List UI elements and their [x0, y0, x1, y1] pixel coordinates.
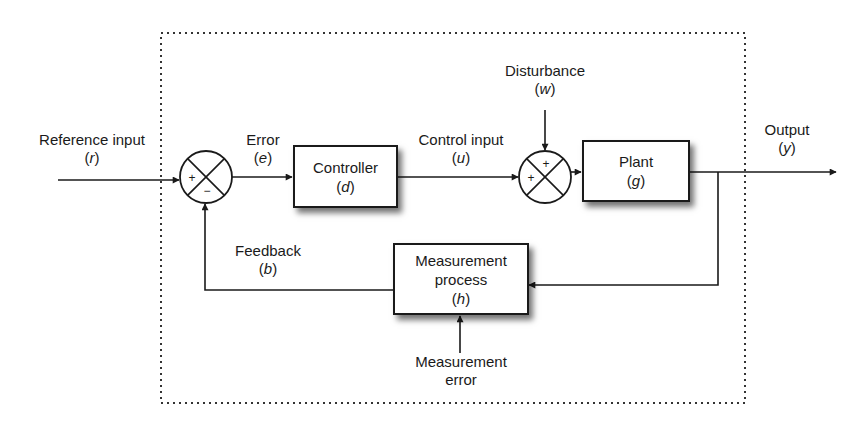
- junction2-plus-top-sign: +: [542, 158, 549, 170]
- junction1-plus-sign: +: [188, 172, 195, 184]
- measurement-process-block: Measurement process (h): [393, 243, 529, 315]
- controller-block: Controller (d): [293, 145, 398, 208]
- measurement-symbol: (h): [452, 289, 470, 308]
- feedback-label: Feedback (b): [235, 242, 301, 278]
- disturbance-label: Disturbance (w): [505, 62, 585, 98]
- measurement-label-line1: Measurement: [415, 251, 507, 270]
- junction2-plus-left-sign: +: [527, 172, 534, 184]
- measurement-error-label: Measurement error: [415, 353, 507, 389]
- plant-symbol: (g): [627, 171, 645, 190]
- plant-label: Plant: [619, 152, 653, 171]
- reference-input-label: Reference input (r): [39, 131, 145, 167]
- control-input-label: Control input (u): [418, 131, 503, 167]
- controller-label: Controller: [313, 158, 378, 177]
- plant-block: Plant (g): [582, 140, 690, 202]
- system-boundary: [161, 33, 745, 403]
- measurement-label-line2: process: [435, 270, 488, 289]
- junction1-minus-sign: −: [203, 185, 210, 197]
- error-label: Error (e): [246, 131, 279, 167]
- controller-symbol: (d): [336, 177, 354, 196]
- output-label: Output (y): [764, 121, 809, 157]
